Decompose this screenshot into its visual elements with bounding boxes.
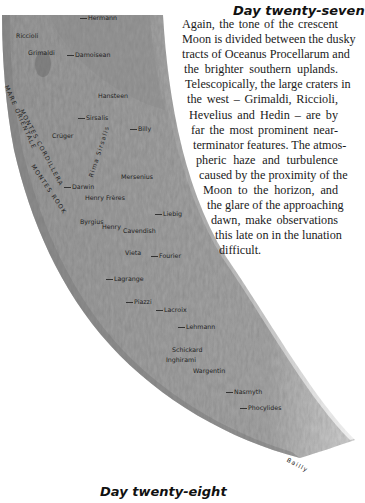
crater-label: Cavendish — [123, 228, 156, 234]
paragraph-line: the brighter southern uplands. — [184, 62, 338, 77]
crater-label: Byrgius — [80, 219, 104, 225]
crater-label: Damoisean — [67, 52, 110, 58]
crater-label: Billy — [130, 126, 151, 132]
crater-label: Liebig — [155, 211, 182, 217]
crater-label: Grimaldi — [28, 50, 55, 56]
crater-label: Lehmann — [178, 324, 215, 330]
crater-label: Fourier — [151, 253, 181, 259]
crater-label: Hansteen — [98, 93, 128, 99]
paragraph-line: Again, the tone of the crescent — [182, 17, 338, 32]
paragraph-line: dawn, make observations — [211, 213, 338, 228]
heading-day-twenty-seven: Day twenty-seven — [233, 3, 365, 18]
crater-label: Henry Frères — [85, 195, 125, 201]
crater-label: Inghirami — [166, 357, 196, 363]
paragraph-line: far the most prominent near- — [191, 123, 338, 138]
paragraph-line: difficult. — [219, 243, 338, 258]
paragraph-line: the glare of the approaching — [207, 198, 338, 213]
paragraph-line: pheric haze and turbulence — [196, 153, 338, 168]
paragraph-line: this late on in the lunation — [215, 228, 338, 243]
paragraph-line: caused by the proximity of the — [199, 168, 338, 183]
paragraph-line: Hevelius and Hedin – are by — [189, 108, 338, 123]
paragraph-day-twenty-seven: Again, the tone of the crescentMoon is d… — [182, 17, 338, 259]
paragraph-line: Telescopically, the large craters in — [185, 77, 338, 92]
crater-label: Piazzi — [126, 299, 152, 305]
crater-label: Lacroix — [156, 307, 187, 313]
heading-day-twenty-eight: Day twenty-eight — [100, 484, 227, 499]
paragraph-line: terminator features. The atmos- — [193, 138, 338, 153]
crater-label: Schickard — [172, 347, 203, 353]
paragraph-line: Moon is divided between the dusky — [182, 32, 338, 47]
crater-label: Phocylides — [240, 405, 281, 411]
crater-label: Lagrange — [106, 276, 144, 282]
crater-label: Vieta — [125, 250, 141, 256]
paragraph-line: tracts of Oceanus Procellarum and — [182, 47, 338, 62]
paragraph-line: the west – Grimaldi, Riccioli, — [187, 92, 338, 107]
crater-label: Wargentin — [193, 368, 225, 374]
crater-label: Mersenius — [121, 174, 153, 180]
crater-label: Henry — [102, 224, 121, 230]
crater-label: Nasmyth — [226, 389, 262, 395]
crater-label: Darwin — [64, 184, 94, 190]
paragraph-line: Moon to the horizon, and — [203, 183, 338, 198]
crater-label: Crüger — [52, 133, 73, 139]
crater-label: Riccioli — [16, 33, 38, 39]
crater-label: Sirsalis — [78, 115, 108, 121]
crater-label: Hermann — [80, 15, 117, 21]
